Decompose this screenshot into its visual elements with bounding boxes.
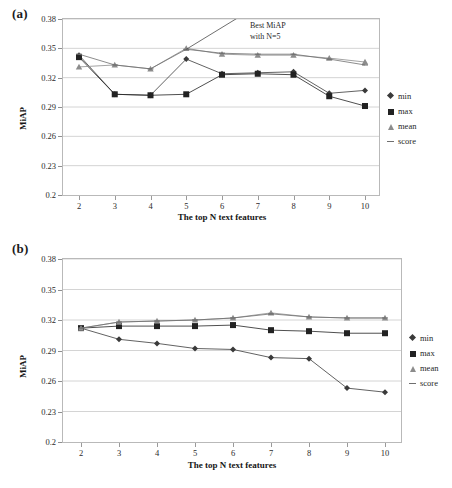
x-tick-mark [79, 196, 80, 200]
x-tick-label: 8 [296, 448, 322, 458]
y-tick-label: 0.2 [26, 437, 56, 447]
x-tick-label: 5 [182, 448, 208, 458]
legend-item-max[interactable]: max [408, 345, 438, 360]
y-tick-mark [58, 412, 62, 413]
x-tick-mark [365, 196, 366, 200]
x-axis-title-a: The top N text features [122, 212, 322, 222]
y-tick-label: 0.26 [26, 376, 56, 386]
x-tick-label: 9 [316, 201, 342, 211]
x-tick-mark [157, 443, 158, 447]
y-tick-mark [58, 195, 62, 196]
y-tick-mark [58, 381, 62, 382]
x-tick-label: 4 [144, 448, 170, 458]
x-tick-label: 6 [220, 448, 246, 458]
plot-area-a [62, 18, 380, 196]
y-axis-title-a: MiAP [18, 107, 28, 130]
legend-item-max[interactable]: max [386, 103, 416, 118]
annotation-line-1-a: Best MiAP [250, 20, 286, 31]
plot-svg-a [63, 19, 379, 195]
chart-panel-a: (a) 0.20.230.260.290.320.350.38 23456789… [0, 0, 452, 238]
triangle-marker-icon [408, 363, 418, 373]
x-tick-mark [294, 196, 295, 200]
x-tick-label: 2 [68, 448, 94, 458]
plot-svg-b [63, 259, 401, 442]
legend-item-mean[interactable]: mean [408, 360, 438, 375]
x-tick-label: 10 [352, 201, 378, 211]
legend-label: mean [420, 363, 438, 373]
dash-marker-icon [386, 136, 396, 146]
x-tick-mark [186, 196, 187, 200]
diamond-marker-icon [386, 91, 396, 101]
y-tick-label: 0.23 [26, 161, 56, 171]
legend-item-min[interactable]: min [408, 330, 438, 345]
y-tick-label: 0.2 [26, 190, 56, 200]
x-tick-label: 4 [138, 201, 164, 211]
chart-panel-b: (b) 0.20.230.260.290.320.350.38 23456789… [0, 238, 452, 488]
y-tick-mark [58, 320, 62, 321]
annotation-line-2-a: with N=5 [250, 31, 286, 42]
x-tick-label: 7 [258, 448, 284, 458]
y-tick-mark [58, 78, 62, 79]
y-tick-label: 0.26 [26, 131, 56, 141]
y-tick-mark [58, 48, 62, 49]
x-tick-mark [233, 443, 234, 447]
y-tick-mark [58, 351, 62, 352]
x-tick-mark [329, 196, 330, 200]
diamond-marker-icon [408, 333, 418, 343]
y-tick-mark [58, 136, 62, 137]
legend-label: max [420, 348, 435, 358]
y-tick-label: 0.32 [26, 73, 56, 83]
x-tick-mark [347, 443, 348, 447]
y-tick-label: 0.35 [26, 43, 56, 53]
y-tick-label: 0.38 [26, 254, 56, 264]
triangle-marker-icon [386, 121, 396, 131]
x-tick-label: 3 [106, 448, 132, 458]
square-marker-icon [408, 348, 418, 358]
legend-label: mean [398, 121, 416, 131]
legend-item-score[interactable]: score [386, 133, 416, 148]
x-tick-mark [385, 443, 386, 447]
x-tick-mark [81, 443, 82, 447]
legend-label: min [398, 91, 411, 101]
legend-item-mean[interactable]: mean [386, 118, 416, 133]
legend-label: max [398, 106, 413, 116]
legend-b: minmaxmeanscore [408, 330, 438, 390]
x-tick-label: 6 [209, 201, 235, 211]
plot-area-b [62, 258, 402, 443]
legend-item-min[interactable]: min [386, 88, 416, 103]
x-tick-label: 5 [173, 201, 199, 211]
figure-container: (a) 0.20.230.260.290.320.350.38 23456789… [0, 0, 452, 488]
x-tick-label: 10 [372, 448, 398, 458]
y-tick-mark [58, 442, 62, 443]
y-tick-label: 0.32 [26, 315, 56, 325]
x-tick-label: 3 [102, 201, 128, 211]
y-tick-mark [58, 166, 62, 167]
legend-label: score [420, 378, 438, 388]
x-tick-mark [271, 443, 272, 447]
x-tick-label: 7 [245, 201, 271, 211]
y-tick-mark [58, 107, 62, 108]
x-tick-label: 9 [334, 448, 360, 458]
x-tick-label: 8 [281, 201, 307, 211]
x-tick-mark [151, 196, 152, 200]
y-tick-label: 0.29 [26, 102, 56, 112]
x-tick-mark [195, 443, 196, 447]
square-marker-icon [386, 106, 396, 116]
legend-label: min [420, 333, 433, 343]
y-tick-label: 0.38 [26, 14, 56, 24]
x-tick-mark [309, 443, 310, 447]
legend-item-score[interactable]: score [408, 375, 438, 390]
x-tick-mark [119, 443, 120, 447]
y-axis-title-b: MiAP [18, 355, 28, 378]
x-axis-title-b: The top N text features [132, 460, 332, 470]
y-tick-mark [58, 19, 62, 20]
x-tick-mark [115, 196, 116, 200]
y-tick-label: 0.35 [26, 285, 56, 295]
legend-a: minmaxmeanscore [386, 88, 416, 148]
legend-label: score [398, 136, 416, 146]
x-tick-mark [222, 196, 223, 200]
y-tick-mark [58, 290, 62, 291]
x-tick-mark [258, 196, 259, 200]
y-tick-label: 0.29 [26, 346, 56, 356]
x-tick-label: 2 [66, 201, 92, 211]
